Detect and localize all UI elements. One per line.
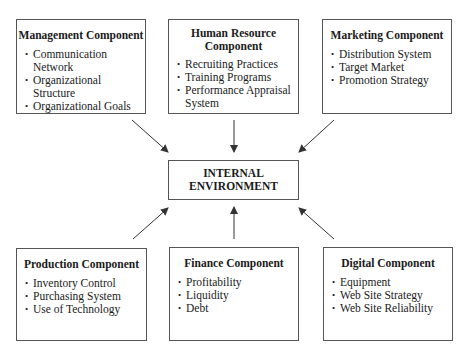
list-item: Profitability — [178, 276, 298, 289]
list-item: Organizational Structure — [25, 74, 145, 100]
human-resource-component-box: Human Resource Component Recruiting Prac… — [168, 19, 299, 114]
human-resource-list: Recruiting Practices Training Programs P… — [169, 58, 298, 110]
list-item: Liquidity — [178, 289, 298, 302]
list-item: Promotion Strategy — [331, 74, 451, 87]
human-resource-title-line2: Component — [169, 40, 298, 53]
list-item: Equipment — [332, 276, 452, 289]
list-item: Web Site Reliability — [332, 302, 452, 315]
management-component-box: Management Component Communication Netwo… — [16, 19, 146, 114]
management-title: Management Component — [17, 29, 145, 42]
center-line1: INTERNAL — [203, 167, 264, 180]
arrow-production-to-center — [133, 208, 168, 239]
list-item: Purchasing System — [25, 290, 146, 303]
list-item: Debt — [178, 302, 298, 315]
management-list: Communication Network Organizational Str… — [17, 48, 145, 113]
list-item: Target Market — [331, 61, 451, 74]
arrow-management-to-center — [132, 120, 168, 152]
finance-component-box: Finance Component Profitability Liquidit… — [169, 247, 299, 341]
list-item: Performance Appraisal System — [177, 84, 293, 110]
list-item: Recruiting Practices — [177, 58, 298, 71]
marketing-component-box: Marketing Component Distribution System … — [322, 19, 452, 114]
digital-list: Equipment Web Site Strategy Web Site Rel… — [324, 276, 452, 315]
marketing-title: Marketing Component — [323, 29, 451, 42]
arrow-digital-to-center — [299, 208, 334, 239]
production-list: Inventory Control Purchasing System Use … — [17, 277, 146, 316]
digital-component-box: Digital Component Equipment Web Site Str… — [323, 247, 453, 341]
center-line2: ENVIRONMENT — [189, 180, 278, 193]
internal-environment-box: INTERNAL ENVIRONMENT — [168, 160, 299, 200]
production-component-box: Production Component Inventory Control P… — [16, 248, 147, 341]
human-resource-title: Human Resource Component — [169, 27, 298, 53]
digital-title: Digital Component — [324, 257, 452, 270]
list-item: Web Site Strategy — [332, 289, 452, 302]
human-resource-title-line1: Human Resource — [169, 27, 298, 40]
marketing-list: Distribution System Target Market Promot… — [323, 48, 451, 87]
finance-title: Finance Component — [170, 257, 298, 270]
list-item: Organizational Goals — [25, 100, 145, 113]
list-item: Training Programs — [177, 71, 298, 84]
list-item: Communication Network — [25, 48, 145, 74]
list-item: Distribution System — [331, 48, 451, 61]
list-item: Use of Technology — [25, 303, 146, 316]
list-item: Inventory Control — [25, 277, 146, 290]
arrow-marketing-to-center — [299, 120, 334, 152]
finance-list: Profitability Liquidity Debt — [170, 276, 298, 315]
production-title: Production Component — [17, 258, 146, 271]
